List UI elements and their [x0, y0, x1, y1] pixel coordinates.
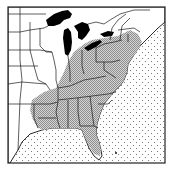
florida-marker	[115, 152, 117, 154]
range-map	[0, 0, 174, 174]
